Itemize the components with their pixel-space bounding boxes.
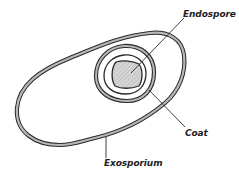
endospore-label: Endospore [183,9,236,19]
endospore-leader-line [131,18,184,73]
coat-label: Coat [185,128,208,138]
spore-core [112,61,142,88]
spore-diagram [0,0,239,175]
coat-leader-line [149,90,185,127]
exosporium-label: Exosporium [104,158,162,168]
